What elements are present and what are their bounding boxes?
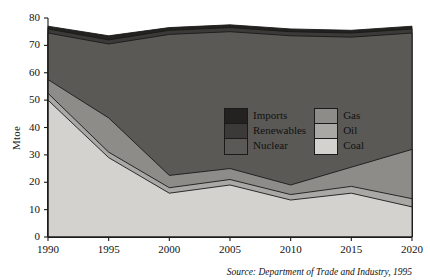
x-tick-label: 1990 <box>25 243 71 255</box>
legend-column-left: ImportsRenewablesNuclear <box>224 108 306 155</box>
y-tick-label: 20 <box>14 175 40 187</box>
stacked-area-chart: Mtoe 80706050403020100 19901995200020052… <box>0 0 430 280</box>
legend-label-nuclear: Nuclear <box>253 138 306 153</box>
legend-swatch-imports <box>225 109 247 124</box>
x-tick-label: 2005 <box>207 243 253 255</box>
chart-legend: ImportsRenewablesNuclear GasOilCoal <box>224 108 384 158</box>
y-tick-label: 60 <box>14 66 40 78</box>
legend-label-renewables: Renewables <box>253 123 306 138</box>
legend-swatches-left <box>224 108 248 155</box>
y-tick-label: 50 <box>14 93 40 105</box>
x-tick-label: 2020 <box>389 243 430 255</box>
y-tick-label: 0 <box>14 230 40 242</box>
legend-column-right: GasOilCoal <box>314 108 364 155</box>
legend-label-coal: Coal <box>343 138 364 153</box>
legend-label-gas: Gas <box>343 108 364 123</box>
legend-label-oil: Oil <box>343 123 364 138</box>
x-tick-label: 2000 <box>146 243 192 255</box>
legend-swatch-coal <box>315 139 337 154</box>
x-tick-label: 2010 <box>268 243 314 255</box>
legend-swatch-renewables <box>225 124 247 139</box>
legend-swatch-nuclear <box>225 139 247 154</box>
y-tick-label: 80 <box>14 11 40 23</box>
legend-swatches-right <box>314 108 338 155</box>
legend-label-imports: Imports <box>253 108 306 123</box>
x-tick-label: 2015 <box>328 243 374 255</box>
y-tick-label: 40 <box>14 121 40 133</box>
legend-swatch-oil <box>315 124 337 139</box>
legend-labels-left: ImportsRenewablesNuclear <box>253 108 306 153</box>
y-tick-label: 70 <box>14 38 40 50</box>
y-tick-label: 30 <box>14 148 40 160</box>
legend-labels-right: GasOilCoal <box>343 108 364 153</box>
source-note: Source: Department of Trade and Industry… <box>0 267 422 277</box>
y-tick-label: 10 <box>14 203 40 215</box>
legend-swatch-gas <box>315 109 337 124</box>
x-tick-label: 1995 <box>86 243 132 255</box>
